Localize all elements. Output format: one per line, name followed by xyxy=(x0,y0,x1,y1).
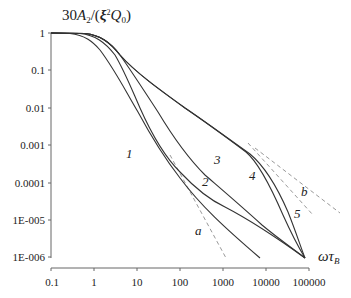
curve-labels: 1 2 3 4 5 a b xyxy=(126,146,308,238)
svg-text:0.01: 0.01 xyxy=(26,102,45,114)
svg-text:100000: 100000 xyxy=(293,276,327,288)
curve-1 xyxy=(51,33,260,258)
svg-text:1: 1 xyxy=(91,276,97,288)
svg-text:1E-005: 1E-005 xyxy=(13,214,46,226)
asymptote-b xyxy=(248,143,313,215)
svg-text:1000: 1000 xyxy=(212,276,235,288)
curve-2 xyxy=(51,33,305,258)
svg-text:0.1: 0.1 xyxy=(31,64,45,76)
x-axis xyxy=(51,268,309,271)
y-axis xyxy=(48,33,51,258)
curve-4 xyxy=(51,33,305,258)
label-asymptote-a: a xyxy=(195,223,202,238)
svg-text:10000: 10000 xyxy=(252,276,280,288)
label-curve-4: 4 xyxy=(249,168,256,183)
chart-title: 30A2/(ξ2Q0) xyxy=(62,7,131,25)
curve-5 xyxy=(51,33,305,258)
curve-3 xyxy=(51,33,305,258)
svg-text:0.1: 0.1 xyxy=(45,276,59,288)
y-tick-labels: 1 0.1 0.01 0.001 0.0001 1E-005 1E-006 xyxy=(13,27,46,263)
dashed-asymptotes xyxy=(170,143,340,258)
svg-text:1: 1 xyxy=(40,27,46,39)
label-curve-2: 2 xyxy=(202,174,209,189)
x-axis-label: ωτB xyxy=(318,248,340,266)
chart: 30A2/(ξ2Q0) 1 0.1 0.01 0.001 0.0001 1E-0… xyxy=(0,0,351,298)
asymptote-b2 xyxy=(255,148,340,213)
svg-text:0.001: 0.001 xyxy=(20,139,45,151)
curves xyxy=(51,33,305,258)
x-tick-labels: 0.1 1 10 100 1000 10000 100000 xyxy=(45,276,326,288)
label-curve-5: 5 xyxy=(294,206,301,221)
svg-text:10: 10 xyxy=(132,276,144,288)
svg-text:0.0001: 0.0001 xyxy=(15,177,45,189)
label-curve-1: 1 xyxy=(126,146,133,161)
svg-text:1E-006: 1E-006 xyxy=(13,251,46,263)
svg-text:100: 100 xyxy=(172,276,189,288)
label-curve-3: 3 xyxy=(213,152,221,167)
label-asymptote-b: b xyxy=(301,184,308,199)
